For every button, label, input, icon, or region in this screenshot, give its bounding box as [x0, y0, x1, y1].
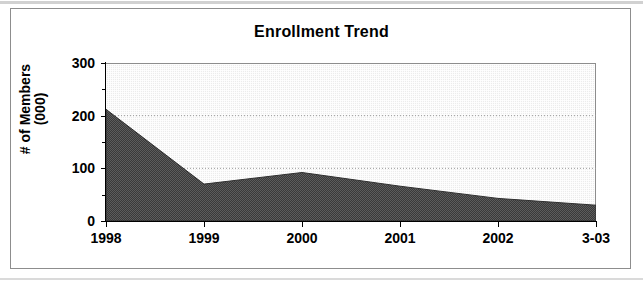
x-tick-2002 — [498, 222, 499, 227]
x-tick-label-1998: 1998 — [71, 231, 141, 245]
y-tick-250 — [102, 89, 106, 90]
scan-artifact-bottom — [0, 278, 643, 280]
y-tick-label-0: 0 — [55, 214, 95, 228]
x-axis-line — [105, 221, 597, 222]
x-tick-label-2002: 2002 — [463, 231, 533, 245]
x-tick-label-1999: 1999 — [169, 231, 239, 245]
scan-artifact-top — [0, 1, 643, 4]
chart-title: Enrollment Trend — [11, 23, 632, 41]
area-series-svg — [106, 63, 596, 221]
x-tick-3-03 — [596, 222, 597, 227]
chart-frame: Enrollment Trend # of Members (000) — [10, 8, 631, 269]
x-tick-2001 — [400, 222, 401, 227]
y-tick-label-300: 300 — [55, 56, 95, 70]
y-tick-100 — [101, 168, 106, 169]
y-tick-200 — [101, 116, 106, 117]
x-tick-1998 — [106, 222, 107, 227]
gridlines — [106, 116, 596, 169]
y-tick-label-200: 200 — [55, 109, 95, 123]
y-tick-150 — [102, 142, 106, 143]
x-tick-label-3-03: 3-03 — [561, 231, 631, 245]
x-tick-1999 — [204, 222, 205, 227]
y-axis-title: # of Members (000) — [11, 34, 55, 184]
x-tick-label-2001: 2001 — [365, 231, 435, 245]
y-axis-title-line-1: # of Members — [18, 64, 33, 154]
x-tick-label-2000: 2000 — [267, 231, 337, 245]
enrollment-area-series — [106, 109, 596, 221]
y-tick-label-100: 100 — [55, 161, 95, 175]
plot-area — [106, 63, 596, 221]
y-tick-300 — [101, 63, 106, 64]
y-axis-title-line-2: (000) — [33, 93, 48, 126]
x-tick-2000 — [302, 222, 303, 227]
y-tick-50 — [102, 195, 106, 196]
